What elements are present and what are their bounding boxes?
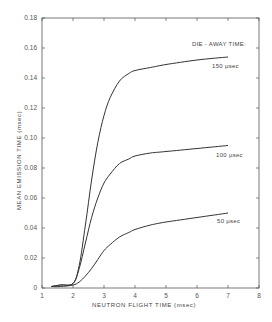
y-axis-title: MEAN EMISSION TIME (msec) <box>16 111 22 210</box>
chart: 12345678 00.020.040.060.080.100.120.140.… <box>0 0 272 322</box>
x-tick-label: 7 <box>226 292 230 299</box>
curve-50 <box>51 213 228 287</box>
curves <box>51 57 228 287</box>
y-tick-label: 0.02 <box>24 254 37 261</box>
curve-label-50: 50 µsec <box>217 218 240 224</box>
x-tick-label: 6 <box>195 292 199 299</box>
curve-label-150: 150 µsec <box>212 63 239 69</box>
y-tick-label: 0.08 <box>24 164 37 171</box>
y-tick-label: 0.12 <box>24 104 37 111</box>
x-tick-label: 2 <box>71 292 75 299</box>
y-tick-label: 0.16 <box>24 44 37 51</box>
x-tick-label: 8 <box>257 292 261 299</box>
y-tick-label: 0.18 <box>24 14 37 21</box>
curve-150 <box>51 57 228 287</box>
curve-100 <box>51 146 228 287</box>
y-tick-label: 0.10 <box>24 134 37 141</box>
y-tick-label: 0 <box>33 284 37 291</box>
x-axis-title: NEUTRON FLIGHT TIME (msec) <box>92 302 196 308</box>
x-tick-label: 4 <box>133 292 137 299</box>
curve-label-100: 100 µsec <box>216 152 243 158</box>
legend-title: DIE - AWAY TIME: <box>192 41 246 47</box>
y-tick-label: 0.14 <box>24 74 37 81</box>
x-tick-label: 3 <box>102 292 106 299</box>
x-tick-label: 5 <box>164 292 168 299</box>
x-axis-ticks: 12345678 <box>40 18 261 299</box>
x-tick-label: 1 <box>40 292 44 299</box>
y-tick-label: 0.06 <box>24 194 37 201</box>
y-tick-label: 0.04 <box>24 224 37 231</box>
